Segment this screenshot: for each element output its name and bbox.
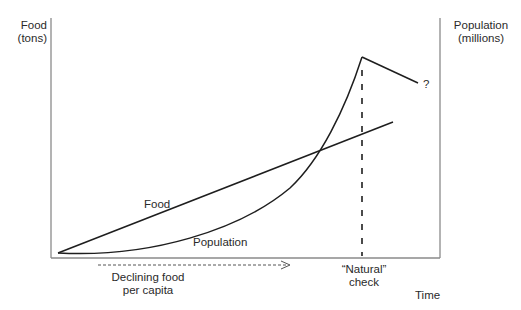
y-left-label: Food (tons) — [0, 19, 47, 45]
natural-check-line2: check — [330, 276, 398, 289]
population-curve — [58, 57, 362, 254]
population-series-label: Population — [193, 236, 247, 249]
y-left-label-line1: Food — [0, 19, 47, 32]
natural-check-line1: “Natural” — [330, 263, 398, 276]
food-line — [58, 122, 393, 253]
y-left-label-line2: (tons) — [0, 32, 47, 45]
population-decline-line — [362, 57, 418, 83]
chart-svg — [0, 0, 521, 310]
declining-food-line1: Declining food — [88, 271, 208, 284]
x-axis-label: Time — [415, 289, 440, 302]
y-right-label: Population (millions) — [441, 19, 521, 45]
declining-food-line2: per capita — [88, 284, 208, 297]
y-right-label-line2: (millions) — [441, 32, 521, 45]
declining-food-label: Declining food per capita — [88, 271, 208, 297]
food-series-label: Food — [144, 198, 170, 211]
question-annotation: ? — [423, 78, 429, 91]
natural-check-label: “Natural” check — [330, 263, 398, 289]
y-right-label-line1: Population — [441, 19, 521, 32]
